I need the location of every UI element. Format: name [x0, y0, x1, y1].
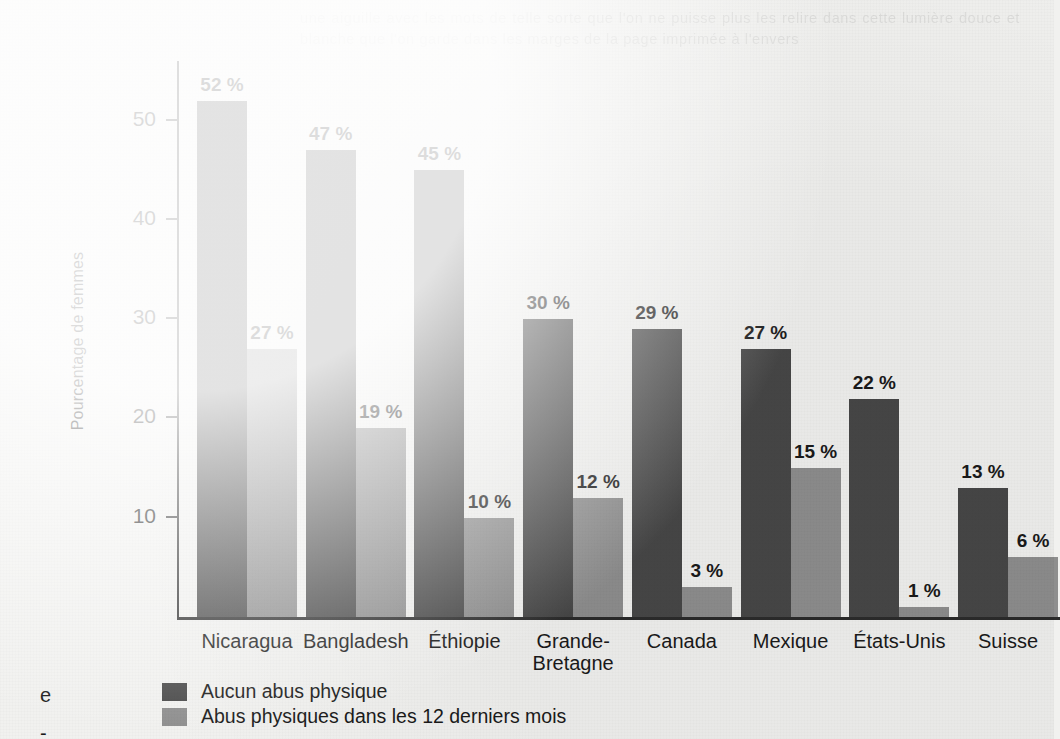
- bar-value-label: 22 %: [853, 372, 896, 394]
- bar-group-nicaragua: 52 %27 %Nicaragua: [197, 101, 297, 617]
- bar-value-label: 30 %: [526, 292, 569, 314]
- bar-abus-12-mois[interactable]: 19 %: [356, 428, 406, 617]
- bar-group-grande-bretagne: 30 %12 %Grande-Bretagne: [523, 319, 623, 617]
- bar-abus-12-mois[interactable]: 3 %: [682, 587, 732, 617]
- bar-value-label: 29 %: [635, 302, 678, 324]
- bar-group-états-unis: 22 %1 %États-Unis: [849, 399, 949, 617]
- bar-value-label: 27 %: [250, 322, 293, 344]
- bar-value-label: 12 %: [576, 471, 619, 493]
- y-tick-30: 30: [166, 317, 177, 319]
- x-category-label: Bangladesh: [303, 630, 409, 652]
- y-tick-20: 20: [166, 416, 177, 418]
- chart-legend: Aucun abus physiqueAbus physiques dans l…: [162, 679, 566, 729]
- bar-aucun-abus[interactable]: 45 %: [414, 170, 464, 617]
- legend-swatch-icon: [162, 683, 187, 701]
- legend-label: Aucun abus physique: [201, 680, 387, 703]
- x-axis-line: [177, 617, 1060, 620]
- bar-aucun-abus[interactable]: 13 %: [958, 488, 1008, 617]
- bar-abus-12-mois[interactable]: 1 %: [899, 607, 949, 617]
- x-category-label: Éthiopie: [428, 630, 500, 652]
- y-tick-10: 10: [166, 516, 177, 518]
- x-category-label: Grande-Bretagne: [533, 630, 614, 674]
- y-tick-label: 40: [133, 206, 156, 230]
- bar-aucun-abus[interactable]: 52 %: [197, 101, 247, 617]
- bar-value-label: 52 %: [200, 74, 243, 96]
- bar-aucun-abus[interactable]: 27 %: [741, 349, 791, 617]
- bar-value-label: 45 %: [418, 143, 461, 165]
- x-category-label: Suisse: [978, 630, 1038, 652]
- x-category-label: Mexique: [753, 630, 829, 652]
- bar-value-label: 3 %: [690, 560, 723, 582]
- bar-value-label: 15 %: [794, 441, 837, 463]
- y-tick-label: 20: [133, 404, 156, 428]
- bar-value-label: 47 %: [309, 123, 352, 145]
- bar-abus-12-mois[interactable]: 15 %: [791, 468, 841, 617]
- legend-item-1[interactable]: Aucun abus physique: [162, 679, 566, 704]
- y-tick-label: 50: [133, 107, 156, 131]
- x-category-label: Nicaragua: [201, 630, 292, 652]
- bar-aucun-abus[interactable]: 47 %: [306, 150, 356, 617]
- y-tick-40: 40: [166, 218, 177, 220]
- y-axis-line: [177, 61, 179, 620]
- bar-abus-12-mois[interactable]: 27 %: [247, 349, 297, 617]
- bar-aucun-abus[interactable]: 30 %: [523, 319, 573, 617]
- x-category-label: Canada: [647, 630, 717, 652]
- bar-value-label: 6 %: [1017, 530, 1050, 552]
- y-tick-label: 10: [133, 504, 156, 528]
- x-category-label: États-Unis: [853, 630, 945, 652]
- legend-item-2[interactable]: Abus physiques dans les 12 derniers mois: [162, 704, 566, 729]
- y-tick-50: 50: [166, 119, 177, 121]
- bar-value-label: 1 %: [908, 580, 941, 602]
- bar-abus-12-mois[interactable]: 10 %: [464, 518, 514, 617]
- legend-label: Abus physiques dans les 12 derniers mois: [201, 705, 566, 728]
- bar-aucun-abus[interactable]: 29 %: [632, 329, 682, 617]
- bar-group-mexique: 27 %15 %Mexique: [741, 349, 841, 617]
- y-axis-title: Pourcentage de femmes: [69, 252, 87, 431]
- bar-group-canada: 29 %3 %Canada: [632, 329, 732, 617]
- margin-fragment-1: e: [40, 684, 51, 707]
- bar-value-label: 19 %: [359, 401, 402, 423]
- bar-abus-12-mois[interactable]: 6 %: [1008, 557, 1058, 617]
- bar-group-suisse: 13 %6 %Suisse: [958, 488, 1058, 617]
- y-tick-label: 30: [133, 305, 156, 329]
- bar-value-label: 27 %: [744, 322, 787, 344]
- bar-group-bangladesh: 47 %19 %Bangladesh: [306, 150, 406, 617]
- plot-area: Pourcentage de femmes 1020304050 52 %27 …: [177, 61, 1060, 620]
- bar-value-label: 10 %: [468, 491, 511, 513]
- bar-value-label: 13 %: [961, 461, 1004, 483]
- legend-swatch-icon: [162, 708, 187, 726]
- bar-group-éthiopie: 45 %10 %Éthiopie: [414, 170, 514, 617]
- margin-fragment-2: -: [40, 722, 47, 739]
- bar-aucun-abus[interactable]: 22 %: [849, 399, 899, 617]
- bar-abus-12-mois[interactable]: 12 %: [573, 498, 623, 617]
- grouped-bar-chart: Pourcentage de femmes 1020304050 52 %27 …: [40, 16, 1014, 723]
